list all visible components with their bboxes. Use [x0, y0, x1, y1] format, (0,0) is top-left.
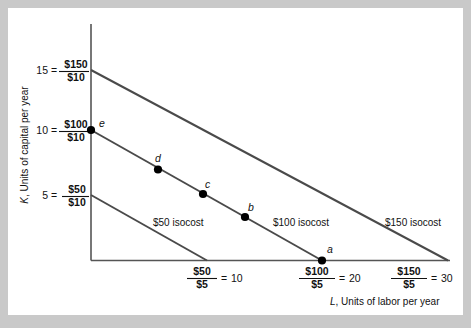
- data-points: e d c b a: [87, 117, 333, 265]
- point-marker-d: [154, 165, 162, 173]
- data-point-c: c: [199, 178, 211, 198]
- isocost-label-100: $100 isocost: [273, 217, 329, 228]
- x-axis-title-text: , Units of labor per year: [336, 296, 441, 307]
- y-tick-10-denominator: $10: [67, 131, 85, 143]
- y-tick-5-value: 5: [42, 189, 48, 201]
- data-point-b: b: [241, 201, 254, 221]
- point-marker-b: [241, 213, 249, 221]
- x-tick-30-numerator: $150: [397, 265, 421, 277]
- isocost-label-150: $150 isocost: [385, 217, 441, 228]
- x-tick-20-equals: =: [339, 272, 345, 284]
- point-label-e: e: [99, 117, 105, 129]
- y-tick-5: 5 = $50 $10: [42, 183, 89, 208]
- x-tick-20: $100 $5 = 20: [299, 265, 361, 290]
- y-tick-15-denominator: $10: [67, 71, 85, 83]
- x-tick-10-value: 10: [231, 272, 243, 284]
- x-tick-10-numerator: $50: [193, 265, 211, 277]
- isocost-lines: [91, 70, 448, 261]
- x-tick-20-denominator: $5: [311, 278, 323, 290]
- data-point-e: e: [87, 117, 105, 134]
- y-tick-10-value: 10: [36, 124, 48, 136]
- y-tick-5-numerator: $50: [68, 183, 86, 195]
- y-tick-15-equals: =: [51, 64, 57, 76]
- x-tick-10-denominator: $5: [196, 278, 208, 290]
- x-axis-ticks: $50 $5 = 10 $100 $5 = 20 $150 $5 = 30: [187, 265, 453, 290]
- point-marker-e: [87, 126, 95, 134]
- isocost-label-50: $50 isocost: [153, 217, 204, 228]
- y-axis-title-text: , Units of capital per year: [19, 86, 30, 197]
- point-marker-c: [199, 190, 207, 198]
- y-tick-15-value: 15: [36, 64, 48, 76]
- point-marker-a: [318, 256, 326, 264]
- x-tick-10: $50 $5 = 10: [187, 265, 243, 290]
- x-tick-30-value: 30: [441, 272, 453, 284]
- isocost-chart: 15 = $150 $10 10 = $100 $10 5 = $50 $10: [0, 0, 471, 328]
- y-axis-ticks: 15 = $150 $10 10 = $100 $10 5 = $50 $10: [36, 58, 89, 208]
- point-label-d: d: [155, 152, 162, 164]
- y-tick-10: 10 = $100 $10: [36, 118, 89, 143]
- isocost-labels: $50 isocost $100 isocost $150 isocost: [153, 217, 441, 228]
- point-label-c: c: [205, 178, 211, 190]
- x-tick-30-equals: =: [431, 272, 437, 284]
- y-tick-10-numerator: $100: [64, 118, 88, 130]
- x-tick-20-numerator: $100: [305, 265, 329, 277]
- y-tick-15: 15 = $150 $10: [36, 58, 89, 83]
- y-tick-5-denominator: $10: [68, 196, 86, 208]
- x-tick-10-equals: =: [221, 272, 227, 284]
- x-tick-30: $150 $5 = 30: [391, 265, 453, 290]
- point-label-b: b: [248, 201, 254, 213]
- data-point-d: d: [154, 152, 162, 174]
- data-point-a: a: [318, 243, 333, 265]
- point-label-a: a: [327, 243, 333, 255]
- y-tick-15-numerator: $150: [64, 58, 88, 70]
- y-tick-10-equals: =: [51, 124, 57, 136]
- y-tick-5-equals: =: [51, 189, 57, 201]
- x-axis-title: L, Units of labor per year: [330, 296, 440, 307]
- y-axis-title: K, Units of capital per year: [19, 86, 30, 204]
- x-tick-20-value: 20: [349, 272, 361, 284]
- x-tick-30-denominator: $5: [403, 278, 415, 290]
- figure-root: 15 = $150 $10 10 = $100 $10 5 = $50 $10: [0, 0, 471, 328]
